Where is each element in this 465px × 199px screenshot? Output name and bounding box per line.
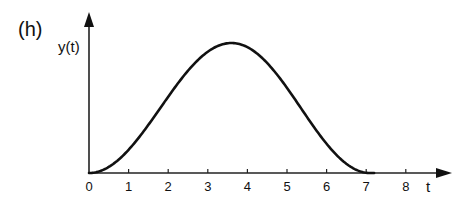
y-axis-arrow-icon (84, 12, 94, 27)
x-tick-label: 0 (85, 179, 92, 194)
x-tick-label: 1 (125, 179, 132, 194)
y-axis-label: y(t) (58, 38, 80, 55)
x-tick-label: 6 (323, 179, 330, 194)
x-tick-label: 2 (165, 179, 172, 194)
signal-curve (89, 43, 374, 173)
x-tick-label: 7 (363, 179, 370, 194)
x-tick-label: 3 (204, 179, 211, 194)
x-axis-label: t (426, 178, 431, 195)
x-tick-label: 4 (244, 179, 251, 194)
x-axis-arrow-icon (436, 168, 452, 178)
signal-plot: 012345678 y(t) t (0, 0, 465, 199)
x-tick-label: 8 (402, 179, 409, 194)
x-tick-label: 5 (283, 179, 290, 194)
